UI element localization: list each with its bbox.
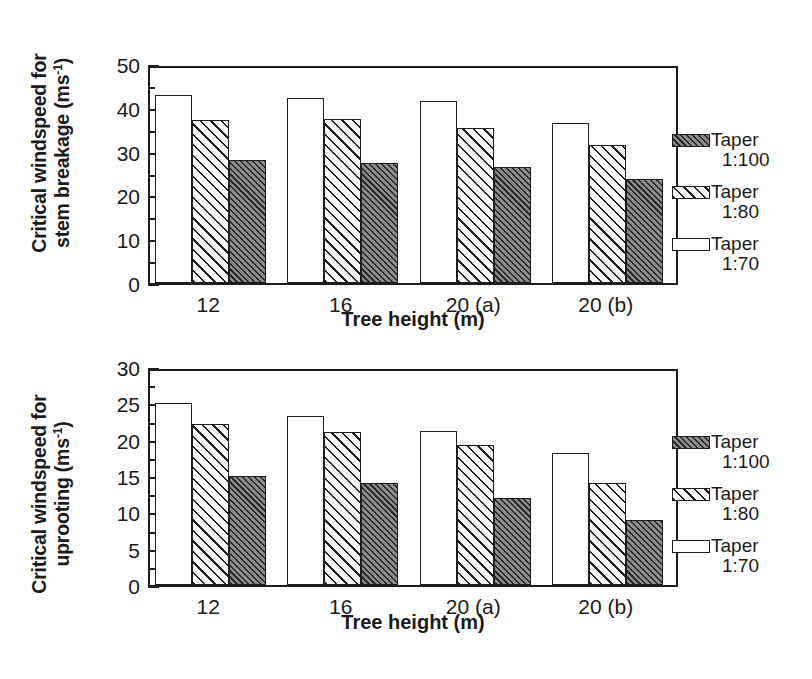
legend-entry: Taper1:80: [672, 484, 759, 525]
y-axis-tick-label: 15: [117, 466, 140, 490]
bar: [420, 431, 457, 585]
bar: [287, 98, 324, 283]
diagonal-hatch-swatch: [672, 488, 710, 501]
y-axis-title-line2: stem breakage (ms: [51, 75, 73, 248]
bar: [324, 119, 361, 283]
bar: [192, 120, 229, 283]
bar: [589, 145, 626, 283]
bar: [552, 453, 589, 585]
bar: [457, 445, 494, 585]
y-axis-tick-label: 5: [128, 539, 140, 563]
y-axis-title-line2-end: ): [51, 58, 73, 64]
y-axis-tick-label: 40: [117, 98, 140, 122]
legend-label: Taper1:80: [711, 484, 759, 525]
legend-label: Taper1:100: [711, 432, 770, 473]
y-axis-title-line1: Critical windspeed for: [28, 53, 50, 252]
dark-hatch-swatch: [672, 436, 710, 449]
chart-panel-uprooting: Critical windspeed for uprooting (ms-1) …: [0, 340, 812, 679]
legend-entry: Taper1:80: [672, 182, 759, 223]
y-axis-minor-tick: [148, 87, 155, 89]
legend-entry: Taper1:70: [672, 536, 759, 577]
chart-panel-stem-breakage: Critical windspeed for stem breakage (ms…: [0, 0, 812, 339]
bar: [494, 167, 531, 283]
plot-area-stem-breakage: [148, 66, 678, 285]
y-axis-tick-label: 0: [128, 273, 140, 297]
bar: [192, 424, 229, 585]
diagonal-hatch-swatch: [672, 186, 710, 199]
y-axis-tick-labels-uprooting: 051015202530: [96, 340, 140, 558]
legend-label-line1: Taper: [711, 431, 759, 452]
legend-entry: Taper1:70: [672, 234, 759, 275]
bar: [155, 403, 192, 585]
dark-hatch-swatch: [672, 134, 710, 147]
y-axis-major-tick: [148, 65, 159, 67]
bar: [589, 483, 626, 585]
legend-label-line1: Taper: [711, 129, 759, 150]
y-axis-tick-label: 10: [117, 229, 140, 253]
legend-label-line2: 1:80: [711, 202, 759, 222]
bar: [626, 179, 663, 283]
legend-label: Taper1:70: [711, 536, 759, 577]
y-axis-tick-label: 20: [117, 430, 140, 454]
legend-label-line2: 1:80: [711, 504, 759, 524]
bar: [626, 520, 663, 585]
plot-area-uprooting: [148, 369, 678, 587]
bar: [229, 476, 266, 585]
white-swatch: [672, 238, 710, 251]
bar: [494, 498, 531, 585]
figure-root: Critical windspeed for stem breakage (ms…: [0, 0, 812, 679]
legend-label-line2: 1:100: [711, 150, 770, 170]
y-axis-title-exponent: -1: [51, 428, 65, 438]
y-axis-title-line2-end: ): [51, 421, 73, 427]
bar: [229, 160, 266, 283]
bar: [287, 416, 324, 585]
y-axis-tick-label: 30: [117, 357, 140, 381]
x-axis-title-uprooting: Tree height (m): [148, 611, 678, 634]
white-swatch: [672, 540, 710, 553]
legend-label-line1: Taper: [711, 483, 759, 504]
y-axis-title-stem-breakage: Critical windspeed for stem breakage (ms…: [2, 18, 100, 288]
bar: [420, 101, 457, 283]
bar: [361, 163, 398, 283]
bar: [457, 128, 494, 283]
legend-label: Taper1:80: [711, 182, 759, 223]
legend-label-line1: Taper: [711, 535, 759, 556]
legend-entry: Taper1:100: [672, 432, 770, 473]
y-axis-tick-labels-stem-breakage: 01020304050: [96, 0, 140, 219]
y-axis-tick-label: 0: [128, 575, 140, 599]
legend-label-line2: 1:70: [711, 556, 759, 576]
y-axis-major-tick: [148, 368, 159, 370]
y-axis-tick-label: 20: [117, 185, 140, 209]
y-axis-title-exponent: -1: [51, 64, 65, 74]
legend-label-line2: 1:100: [711, 452, 770, 472]
legend-label-line1: Taper: [711, 181, 759, 202]
y-axis-title-line1: Critical windspeed for: [28, 394, 50, 593]
legend-label: Taper1:70: [711, 234, 759, 275]
y-axis-tick-label: 10: [117, 502, 140, 526]
legend-label: Taper1:100: [711, 130, 770, 171]
y-axis-title-line2: uprooting (ms: [51, 438, 73, 566]
y-axis-title-uprooting: Critical windspeed for uprooting (ms-1): [2, 354, 100, 634]
bar: [324, 432, 361, 585]
y-axis-minor-tick: [148, 386, 155, 388]
legend-entry: Taper1:100: [672, 130, 770, 171]
y-axis-tick-label: 30: [117, 142, 140, 166]
y-axis-major-tick: [148, 284, 159, 286]
legend-label-line2: 1:70: [711, 254, 759, 274]
y-axis-tick-label: 25: [117, 393, 140, 417]
y-axis-major-tick: [148, 586, 159, 588]
bar: [552, 123, 589, 283]
bar: [155, 95, 192, 283]
legend-label-line1: Taper: [711, 233, 759, 254]
y-axis-tick-label: 50: [117, 54, 140, 78]
bar: [361, 483, 398, 585]
x-axis-title-stem-breakage: Tree height (m): [148, 308, 678, 331]
